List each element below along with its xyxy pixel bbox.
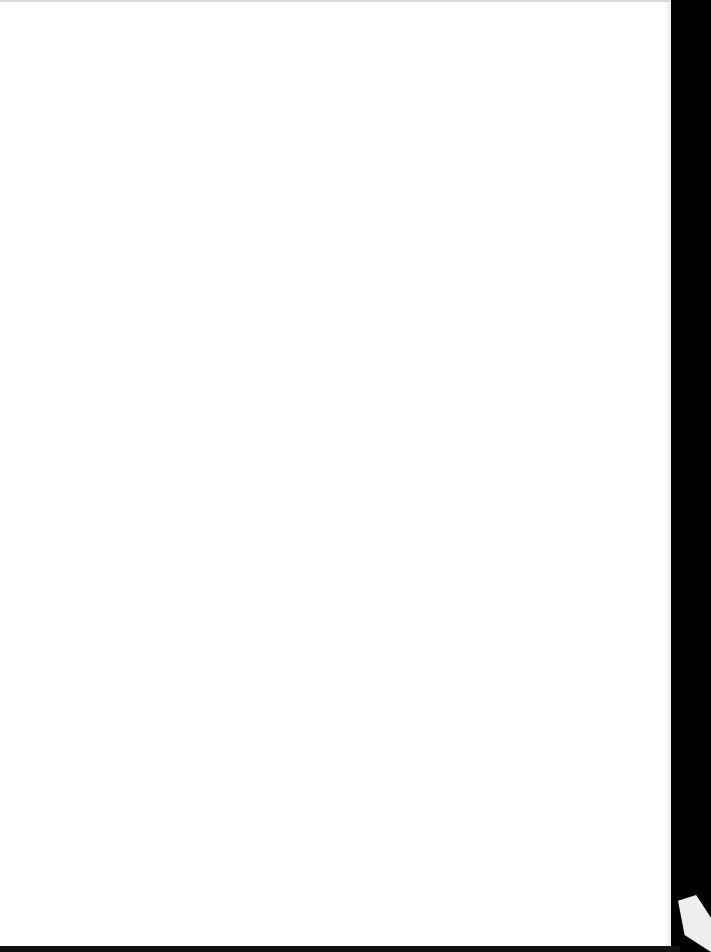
page-content: [60, 62, 611, 888]
scanner-bottom-edge: [0, 946, 680, 952]
scanned-blank-page: [0, 0, 671, 948]
curled-page-corner: [678, 895, 711, 952]
page-edge-shadow: [664, 2, 671, 950]
